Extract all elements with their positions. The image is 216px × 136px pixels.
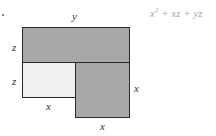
label-right-x: x bbox=[134, 83, 139, 94]
label-bottom-right-x: x bbox=[100, 121, 105, 132]
bullet-dot bbox=[2, 14, 4, 16]
square-xx bbox=[75, 62, 130, 118]
label-left-upper-z: z bbox=[12, 42, 16, 53]
label-bottom-light-x: x bbox=[46, 101, 51, 112]
top-rect-yz bbox=[22, 27, 130, 64]
light-rect-xz bbox=[22, 62, 77, 98]
area-formula: x2 + xz + yz bbox=[150, 6, 203, 19]
label-top-y: y bbox=[72, 11, 77, 22]
label-left-lower-z: z bbox=[12, 76, 16, 87]
